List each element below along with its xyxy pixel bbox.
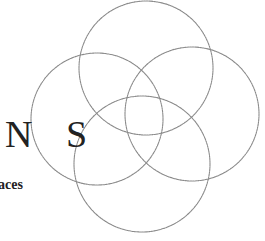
logo-title-letters: N S: [5, 114, 99, 154]
logo-subtitle-fragment: aces: [0, 177, 23, 193]
circle-top: [79, 1, 213, 135]
circle-right: [125, 47, 259, 181]
